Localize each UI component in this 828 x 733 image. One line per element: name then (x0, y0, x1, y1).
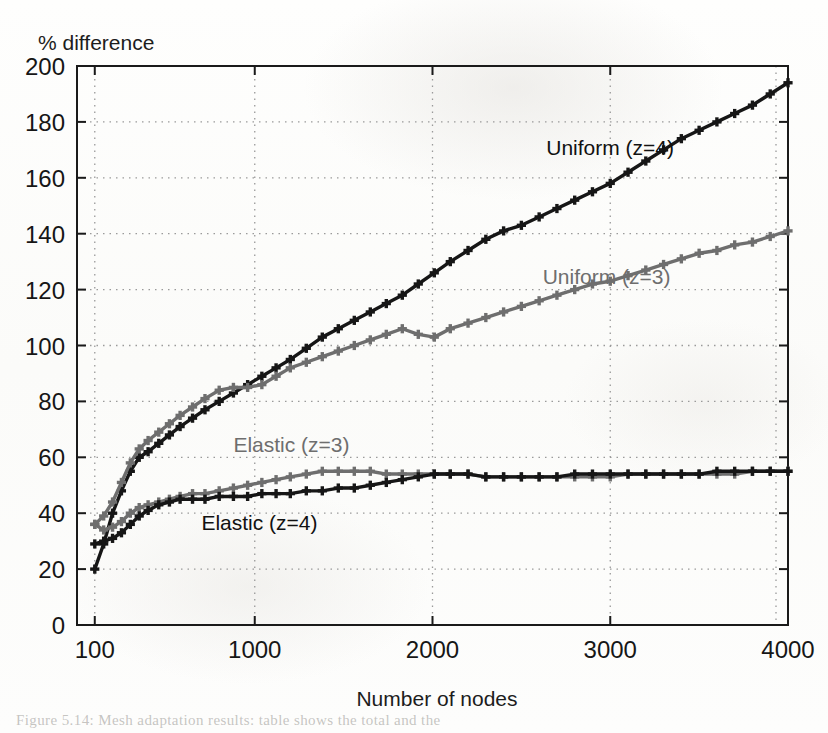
axis-tick-labels: 0204060801001201401601802001001000200030… (25, 53, 815, 663)
series-label-uniform-z-4: Uniform (z=4) (546, 136, 674, 159)
series-label-elastic-z-4: Elastic (z=4) (201, 511, 317, 534)
y-tick-label: 0 (52, 612, 65, 639)
series-label-uniform-z-3: Uniform (z=3) (543, 265, 671, 288)
y-tick-label: 80 (38, 388, 65, 415)
chart-figure: 0204060801001201401601802001001000200030… (0, 0, 828, 733)
line-chart-svg: 0204060801001201401601802001001000200030… (0, 0, 828, 733)
y-tick-label: 120 (25, 277, 65, 304)
grid-lines (77, 66, 788, 625)
y-tick-label: 20 (38, 556, 65, 583)
series-uniform-z-3 (90, 226, 792, 529)
x-tick-label: 4000 (761, 636, 814, 663)
y-axis-title: % difference (38, 31, 154, 54)
y-tick-label: 160 (25, 165, 65, 192)
ghost-caption-text: Figure 5.14: Mesh adaptation results: ta… (16, 712, 441, 729)
x-tick-label: 1000 (228, 636, 281, 663)
series-label-elastic-z-3: Elastic (z=3) (233, 433, 349, 456)
x-tick-label: 100 (75, 636, 115, 663)
x-tick-label: 2000 (406, 636, 459, 663)
y-tick-label: 40 (38, 500, 65, 527)
y-tick-label: 100 (25, 333, 65, 360)
x-tick-label: 3000 (584, 636, 637, 663)
series-elastic-z-4 (90, 467, 792, 549)
y-tick-label: 180 (25, 109, 65, 136)
y-tick-label: 140 (25, 221, 65, 248)
data-series-layer (90, 78, 792, 574)
x-axis-title: Number of nodes (356, 687, 517, 710)
y-tick-label: 200 (25, 53, 65, 80)
y-tick-label: 60 (38, 444, 65, 471)
